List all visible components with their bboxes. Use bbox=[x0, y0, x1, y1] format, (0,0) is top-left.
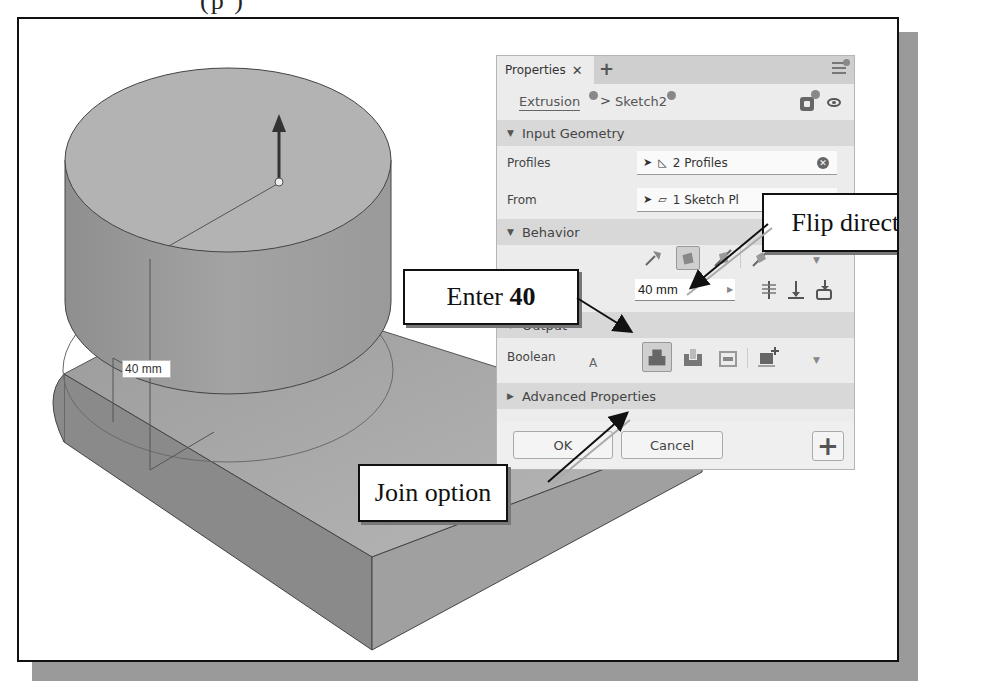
callout-join-option: Join option bbox=[358, 464, 508, 522]
base-plate-rounded-end bbox=[53, 374, 64, 442]
section-title: Input Geometry bbox=[522, 126, 625, 141]
boolean-dropdown-caret-icon[interactable]: ▼ bbox=[813, 355, 820, 365]
clear-selection-icon[interactable]: ✕ bbox=[817, 157, 829, 169]
cancel-button[interactable]: Cancel bbox=[621, 431, 723, 459]
boolean-label: Boolean bbox=[507, 350, 556, 364]
section-advanced-properties[interactable]: ▶ Advanced Properties bbox=[497, 383, 854, 409]
stepper-arrow-icon[interactable]: ▶ bbox=[727, 279, 733, 301]
direction-symmetric-icon[interactable] bbox=[711, 246, 735, 270]
profile-icon: ◺ bbox=[658, 156, 666, 169]
distance-a-label: A bbox=[589, 356, 597, 370]
profiles-selector[interactable]: ➤ ◺ 2 Profiles ✕ bbox=[637, 151, 837, 175]
figure-frame: 40 mm Properties ✕ + Extrusion > Sketch2 bbox=[17, 17, 899, 662]
direction-flipped-icon[interactable] bbox=[676, 246, 700, 270]
extent-to-icon[interactable] bbox=[784, 278, 808, 302]
cylinder-top-face bbox=[65, 68, 391, 252]
callout-enter-40: Enter 40 bbox=[403, 269, 579, 325]
expand-triangle-icon: ▶ bbox=[507, 391, 514, 401]
profiles-value: 2 Profiles bbox=[673, 156, 728, 170]
panel-footer: OK Cancel + bbox=[497, 421, 854, 469]
toolbar-separator bbox=[747, 348, 748, 368]
extent-to-next-icon[interactable] bbox=[812, 278, 836, 302]
from-label: From bbox=[507, 193, 537, 207]
collapse-triangle-icon: ▼ bbox=[507, 227, 514, 237]
boolean-intersect-icon[interactable] bbox=[715, 344, 741, 370]
boolean-cut-icon[interactable] bbox=[680, 344, 706, 370]
eye-icon[interactable] bbox=[827, 98, 841, 107]
tab-label: Properties bbox=[505, 63, 566, 77]
direction-dropdown-caret-icon[interactable]: ▼ bbox=[813, 255, 820, 265]
breadcrumb-sketch2[interactable]: Sketch2 bbox=[615, 94, 667, 109]
boolean-join-icon[interactable] bbox=[642, 342, 672, 372]
callout-enter-value: 40 bbox=[509, 282, 535, 312]
section-title: Advanced Properties bbox=[522, 389, 656, 404]
add-tab-button[interactable]: + bbox=[599, 58, 614, 79]
breadcrumb: Extrusion > Sketch2 bbox=[497, 84, 854, 120]
distance-dimension-label[interactable]: 40 mm bbox=[122, 360, 171, 378]
close-icon[interactable]: ✕ bbox=[572, 63, 583, 78]
profiles-label: Profiles bbox=[507, 156, 551, 170]
tab-properties[interactable]: Properties ✕ bbox=[497, 56, 594, 84]
properties-panel: Properties ✕ + Extrusion > Sketch2 ▼ Inp… bbox=[496, 55, 855, 470]
distance-value: 40 mm bbox=[638, 282, 678, 297]
breadcrumb-extrusion[interactable]: Extrusion bbox=[519, 94, 580, 111]
breadcrumb-separator: > bbox=[600, 93, 611, 108]
boolean-new-solid-icon[interactable] bbox=[755, 344, 781, 370]
callout-enter-prefix: Enter bbox=[447, 282, 503, 312]
page-header-fragment: (p ) bbox=[200, 0, 245, 16]
direction-default-icon[interactable] bbox=[641, 246, 665, 270]
panel-menu-icon[interactable] bbox=[832, 62, 846, 76]
status-dot-icon bbox=[667, 91, 676, 100]
sketch-plane-icon: ▱ bbox=[658, 193, 666, 206]
section-title: Behavior bbox=[522, 225, 580, 240]
status-dot-icon bbox=[589, 91, 598, 100]
from-value: 1 Sketch Pl bbox=[673, 193, 739, 207]
panel-tab-bar: Properties ✕ + bbox=[497, 56, 854, 84]
collapse-triangle-icon: ▼ bbox=[507, 128, 514, 138]
status-dot-icon bbox=[811, 90, 820, 99]
distance-input[interactable]: 40 mm ▶ bbox=[635, 279, 735, 301]
select-cursor-icon: ➤ bbox=[643, 193, 652, 206]
section-input-geometry[interactable]: ▼ Input Geometry bbox=[497, 120, 854, 146]
apply-plus-button[interactable]: + bbox=[812, 431, 844, 461]
ok-button[interactable]: OK bbox=[513, 431, 613, 459]
callout-flip-direction: Flip direction bbox=[762, 193, 899, 252]
extent-through-all-icon[interactable] bbox=[757, 278, 781, 302]
body-display-icon[interactable] bbox=[800, 97, 814, 111]
toolbar-separator bbox=[740, 248, 741, 268]
select-cursor-icon: ➤ bbox=[643, 156, 652, 169]
